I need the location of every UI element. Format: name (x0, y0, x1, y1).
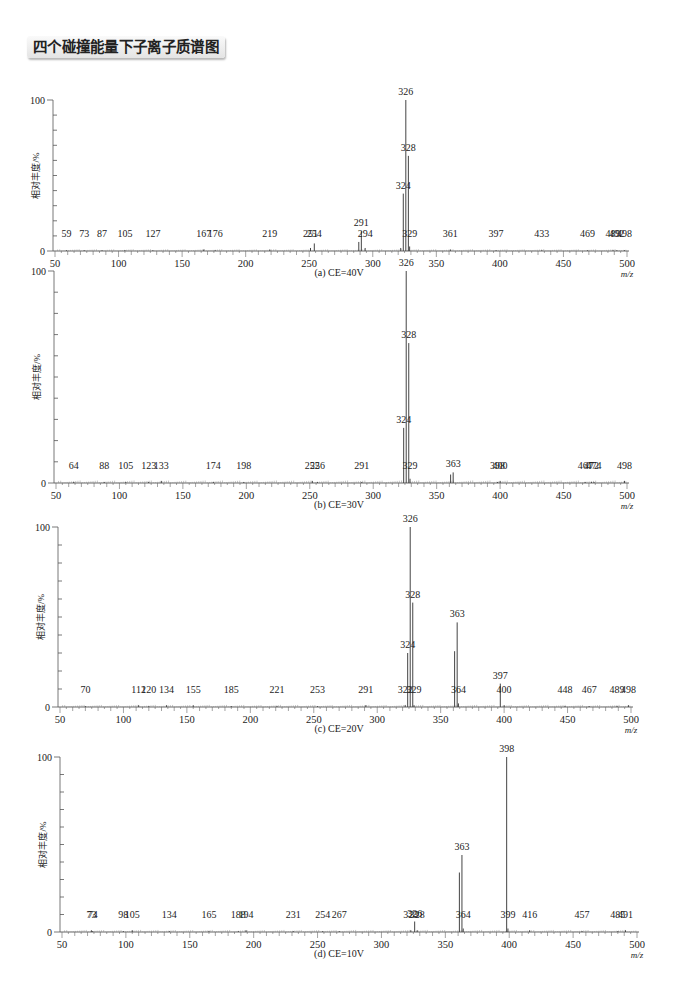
peak-label: 231 (286, 909, 301, 920)
page-title: 四个碰撞能量下子离子质谱图 (27, 36, 225, 58)
peak-label: 254 (307, 228, 322, 239)
peak-label: 324 (396, 180, 411, 191)
peak-label: 254 (315, 909, 330, 920)
x-tick-label: 150 (182, 939, 198, 950)
peak-label: 324 (400, 639, 415, 650)
peak-label: 433 (534, 228, 549, 239)
y-axis-label: 相对丰度/% (30, 152, 41, 199)
peak-label: 326 (398, 86, 413, 97)
peak-label: 324 (396, 414, 411, 425)
peak-label: 498 (617, 228, 632, 239)
x-tick-label: 200 (242, 714, 258, 725)
y-tick-label: 0 (41, 478, 46, 489)
peak-label: 326 (399, 257, 414, 268)
peak-label: 73 (79, 228, 89, 239)
x-axis-label: m/z (625, 725, 638, 735)
x-tick-label: 350 (437, 939, 453, 950)
peak-label: 364 (456, 909, 471, 920)
peak-label: 457 (575, 909, 590, 920)
peak-label: 194 (239, 909, 254, 920)
x-tick-label: 150 (179, 714, 195, 725)
peak-label: 474 (587, 460, 602, 471)
x-tick-label: 300 (369, 714, 385, 725)
x-tick-label: 500 (629, 939, 645, 950)
x-tick-label: 300 (365, 490, 381, 501)
peak-label: 165 (201, 909, 216, 920)
x-tick-label: 200 (238, 490, 254, 501)
y-tick-label: 100 (37, 752, 52, 763)
x-tick-label: 300 (374, 939, 390, 950)
peak-label: 328 (410, 909, 425, 920)
peak-label: 88 (99, 460, 109, 471)
panel-caption: (b) CE=30V (314, 499, 365, 511)
x-axis-label: m/z (631, 950, 644, 960)
spectrum-panel-d: 1000相对丰度/%50100150200250300350400450500m… (0, 742, 677, 961)
peak-label: 491 (618, 909, 633, 920)
x-axis-label: m/z (621, 501, 634, 511)
peak-label: 328 (401, 142, 416, 153)
peak-label: 198 (236, 460, 251, 471)
x-tick-label: 500 (623, 714, 639, 725)
x-tick-label: 200 (246, 939, 262, 950)
peak-label: 134 (162, 909, 177, 920)
peak-label: 329 (402, 228, 417, 239)
peak-label: 155 (186, 684, 201, 695)
peak-label: 294 (358, 228, 373, 239)
y-axis-label: 相对丰度/% (35, 593, 46, 640)
y-tick-label: 100 (35, 522, 50, 533)
x-tick-label: 400 (496, 714, 512, 725)
peak-label: 398 (499, 743, 514, 754)
x-tick-label: 50 (55, 714, 66, 725)
x-tick-label: 100 (112, 490, 128, 501)
x-tick-label: 50 (57, 939, 68, 950)
peak-label: 74 (88, 909, 98, 920)
y-tick-label: 0 (47, 927, 52, 938)
peak-label: 127 (145, 228, 160, 239)
peak-label: 219 (262, 228, 277, 239)
peak-label: 448 (558, 684, 573, 695)
panel-caption: (c) CE=20V (314, 723, 364, 735)
y-tick-label: 100 (30, 95, 45, 106)
x-tick-label: 400 (501, 939, 517, 950)
peak-label: 363 (446, 458, 461, 469)
x-tick-label: 400 (492, 490, 508, 501)
peak-label: 291 (358, 684, 373, 695)
y-axis-label: 相对丰度/% (37, 821, 48, 868)
x-tick-label: 50 (51, 490, 62, 501)
panel-caption: (d) CE=10V (314, 948, 365, 960)
peak-label: 133 (154, 460, 169, 471)
peak-label: 416 (522, 909, 537, 920)
peak-label: 105 (125, 909, 140, 920)
peak-label: 134 (159, 684, 174, 695)
peak-label: 329 (407, 684, 422, 695)
peak-label: 253 (310, 684, 325, 695)
peak-label: 467 (582, 684, 597, 695)
peak-label: 364 (451, 684, 466, 695)
x-tick-label: 350 (429, 490, 445, 501)
peak-label: 221 (269, 684, 284, 695)
peak-label: 291 (354, 217, 369, 228)
peak-label: 326 (403, 513, 418, 524)
x-tick-label: 100 (116, 714, 132, 725)
y-axis-label: 相对丰度/% (31, 353, 42, 400)
x-tick-label: 500 (619, 490, 635, 501)
peak-label: 174 (206, 460, 221, 471)
peak-label: 105 (117, 228, 132, 239)
spectrum-panel-c: 1000相对丰度/%50100150200250300350400450500m… (0, 512, 677, 736)
peak-label: 87 (97, 228, 107, 239)
x-tick-label: 150 (175, 490, 191, 501)
peak-label: 120 (141, 684, 156, 695)
peak-label: 397 (493, 670, 508, 681)
peak-label: 105 (118, 460, 133, 471)
peak-label: 176 (208, 228, 223, 239)
peak-label: 267 (332, 909, 347, 920)
peak-label: 291 (354, 460, 369, 471)
x-tick-label: 350 (433, 714, 449, 725)
peak-label: 70 (80, 684, 90, 695)
peak-label: 64 (69, 460, 79, 471)
peak-label: 361 (443, 228, 458, 239)
y-tick-label: 0 (45, 702, 50, 713)
spectrum-panel-b: 1000相对丰度/%50100150200250300350400450500m… (0, 256, 677, 512)
peak-label: 469 (580, 228, 595, 239)
y-tick-label: 100 (31, 266, 46, 277)
